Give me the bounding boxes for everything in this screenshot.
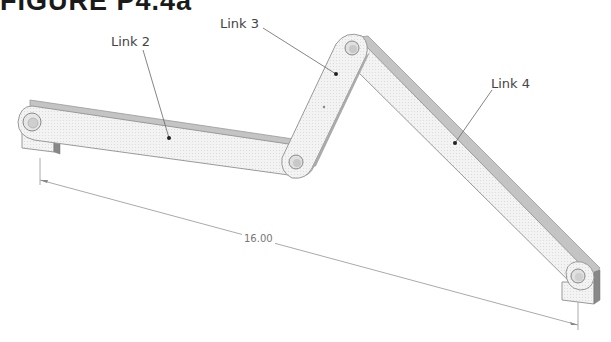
link-3-body <box>282 34 370 178</box>
link-3-label: Link 3 <box>220 16 259 31</box>
link-4-label: Link 4 <box>491 76 530 91</box>
link-4-body <box>350 36 600 300</box>
link-2-body <box>18 100 314 176</box>
dimension-value: 16.00 <box>242 233 275 244</box>
link-2-label: Link 2 <box>111 34 150 49</box>
linkage-drawing <box>0 0 611 342</box>
